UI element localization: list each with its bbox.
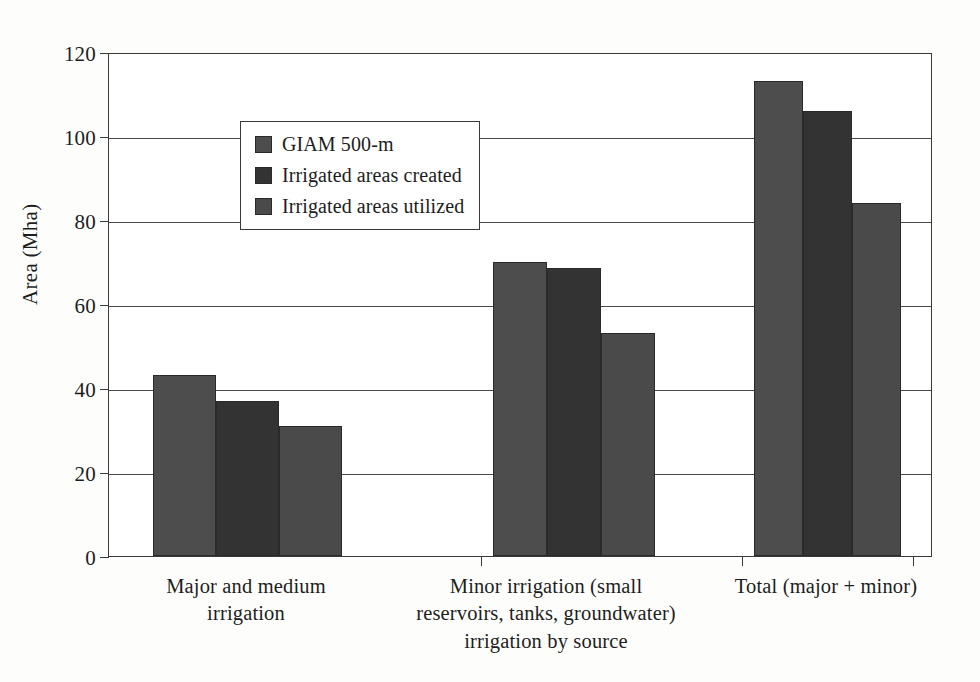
x-tick-mark [481,556,482,566]
category-label-line: irrigation [81,600,411,627]
bar [493,262,547,556]
y-tick-label: 120 [42,44,109,65]
y-tick-label: 0 [42,548,109,569]
category-label-line: reservoirs, tanks, groundwater) [381,600,711,627]
legend-swatch-giam-500-m [255,136,272,153]
category-label: Major and mediumirrigation [81,573,411,628]
y-tick-label: 20 [42,464,109,485]
bar [279,426,342,556]
bar [153,375,216,556]
y-tick-label: 80 [42,212,109,233]
category-label: Total (major + minor) [661,573,980,600]
plot-area: 120100806040200 GIAM 500-m Irrigated are… [108,53,932,557]
category-label-line: irrigation by source [381,628,711,655]
y-axis-title: Area (Mha) [18,203,43,305]
legend-label: Irrigated areas created [282,164,462,186]
legend-item: Irrigated areas utilized [255,195,465,217]
category-label-line: Major and medium [81,573,411,600]
bar-chart-figure: Area (Mha) 120100806040200 GIAM 500-m Ir… [0,0,980,682]
category-label-line: Total (major + minor) [661,573,980,600]
legend-label: Irrigated areas utilized [282,195,464,217]
legend-swatch-irrigated-areas-created [255,167,272,184]
bar [216,401,279,556]
bar [803,111,852,556]
legend-item: Irrigated areas created [255,164,465,186]
legend-swatch-irrigated-areas-utilized [255,198,272,215]
y-tick-label: 40 [42,380,109,401]
y-tick-label: 60 [42,296,109,317]
bar [754,81,803,556]
legend-item: GIAM 500-m [255,133,465,155]
x-tick-mark [913,556,914,566]
bar [601,333,655,556]
bar [547,268,601,556]
chart-legend: GIAM 500-m Irrigated areas created Irrig… [240,121,480,230]
legend-label: GIAM 500-m [282,133,394,155]
x-tick-mark [742,556,743,566]
bar [852,203,901,556]
y-tick-label: 100 [42,128,109,149]
